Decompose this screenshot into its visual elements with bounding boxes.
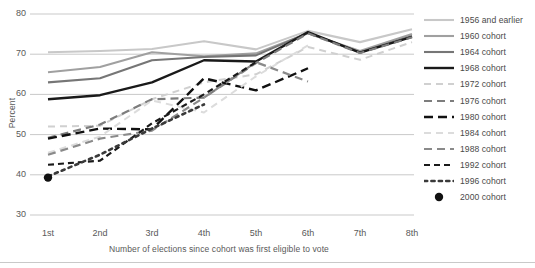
- x-tick-label: 7th: [340, 228, 380, 238]
- series-lines: [48, 29, 412, 176]
- legend-label: 2000 cohort: [460, 192, 506, 202]
- data-point-marker: [44, 173, 52, 181]
- x-tick-label: 5th: [236, 228, 276, 238]
- legend-item[interactable]: 1996 cohort: [424, 173, 535, 189]
- legend-swatch-icon: [424, 62, 454, 74]
- legend-item[interactable]: 1968 cohort: [424, 60, 535, 76]
- legend-item[interactable]: 1980 cohort: [424, 109, 535, 125]
- x-tick-label: 8th: [392, 228, 432, 238]
- legend-label: 1992 cohort: [460, 160, 506, 170]
- series-line: [48, 104, 204, 176]
- x-tick-label: 2nd: [80, 228, 120, 238]
- legend-label: 1984 cohort: [460, 128, 506, 138]
- legend-label: 1988 cohort: [460, 144, 506, 154]
- chart-legend: 1956 and earlier1960 cohort1964 cohort19…: [424, 12, 535, 205]
- legend-item[interactable]: 1972 cohort: [424, 76, 535, 92]
- legend-swatch-icon: [424, 78, 454, 90]
- y-tick-label: 80: [2, 8, 26, 18]
- legend-swatch-icon: [424, 111, 454, 123]
- x-tick-label: 4th: [184, 228, 224, 238]
- x-tick-label: 1st: [28, 228, 68, 238]
- legend-swatch-icon: [424, 159, 454, 171]
- legend-item[interactable]: 1988 cohort: [424, 141, 535, 157]
- legend-label: 1960 cohort: [460, 31, 506, 41]
- legend-swatch-icon: [424, 14, 454, 26]
- legend-item[interactable]: 1956 and earlier: [424, 12, 535, 28]
- y-tick-label: 70: [2, 48, 26, 58]
- legend-swatch-icon: [424, 191, 454, 203]
- legend-label: 1956 and earlier: [460, 15, 523, 25]
- series-line: [48, 33, 412, 82]
- legend-swatch-icon: [424, 175, 454, 187]
- legend-item[interactable]: 1976 cohort: [424, 92, 535, 108]
- legend-label: 1964 cohort: [460, 47, 506, 57]
- legend-item[interactable]: 1960 cohort: [424, 28, 535, 44]
- y-tick-label: 50: [2, 129, 26, 139]
- legend-label: 1996 cohort: [460, 176, 506, 186]
- legend-item[interactable]: 1964 cohort: [424, 44, 535, 60]
- x-tick-label: 3rd: [132, 228, 172, 238]
- footer-divider: [0, 262, 535, 263]
- legend-swatch-icon: [424, 46, 454, 58]
- chart-container: Percent 807060504030 1st2nd3rd4th5th6th7…: [0, 0, 535, 268]
- y-tick-label: 60: [2, 88, 26, 98]
- legend-label: 1968 cohort: [460, 63, 506, 73]
- legend-swatch-icon: [424, 143, 454, 155]
- legend-item[interactable]: 1992 cohort: [424, 157, 535, 173]
- legend-item[interactable]: 2000 cohort: [424, 189, 535, 205]
- legend-label: 1980 cohort: [460, 112, 506, 122]
- x-axis-title: Number of elections since cohort was fir…: [44, 244, 394, 254]
- legend-swatch-icon: [424, 30, 454, 42]
- y-tick-label: 40: [2, 169, 26, 179]
- legend-label: 1972 cohort: [460, 79, 506, 89]
- series-line: [48, 62, 256, 165]
- y-tick-label: 30: [2, 209, 26, 219]
- legend-label: 1976 cohort: [460, 96, 506, 106]
- legend-swatch-icon: [424, 127, 454, 139]
- legend-item[interactable]: 1984 cohort: [424, 125, 535, 141]
- x-tick-label: 6th: [288, 228, 328, 238]
- legend-swatch-icon: [424, 95, 454, 107]
- series-line: [48, 29, 412, 52]
- series-markers: [44, 173, 52, 181]
